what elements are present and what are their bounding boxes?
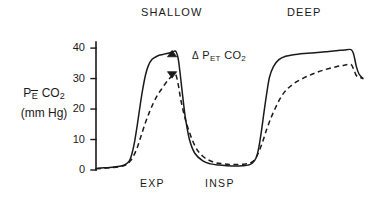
phase-label-deep: DEEP xyxy=(287,7,321,18)
peak-difference-markers xyxy=(167,50,176,78)
phase-label-shallow: SHALLOW xyxy=(141,7,203,18)
y-tick-label-30: 30 xyxy=(63,73,85,84)
peak-marker-down xyxy=(167,72,176,78)
dashed-capnogram-trace xyxy=(96,64,363,168)
phase-label-insp: INSP xyxy=(205,178,235,189)
delta-symbol: Δ xyxy=(192,50,199,61)
solid-capnogram-trace xyxy=(96,49,363,168)
annotation-co2-sub: 2 xyxy=(241,54,246,63)
y-tick-label-20: 20 xyxy=(63,103,85,114)
y-axis xyxy=(91,42,96,170)
y-axis-label-co2-sub: 2 xyxy=(60,91,65,101)
delta-pet-co2-annotation: Δ PET CO2 xyxy=(192,50,246,63)
phase-label-exp: EXP xyxy=(140,178,165,189)
y-tick-label-0: 0 xyxy=(63,164,85,175)
y-axis-label-line1: PE CO2 xyxy=(8,85,80,105)
annotation-et-sub: ET xyxy=(210,54,221,63)
y-axis-label-mixed-expired-sub: E xyxy=(31,91,38,101)
annotation-p: P xyxy=(199,49,210,61)
y-tick-label-10: 10 xyxy=(63,134,85,145)
y-tick-label-40: 40 xyxy=(63,42,85,53)
annotation-co: CO xyxy=(221,49,241,61)
y-axis-label-co: CO xyxy=(38,86,59,100)
